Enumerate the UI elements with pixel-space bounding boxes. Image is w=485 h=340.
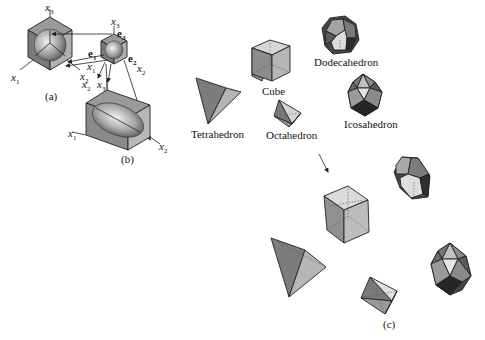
- axis-label-a-x3: x3: [44, 1, 54, 16]
- basis-label-e2: e2: [128, 52, 137, 67]
- panel-label-c: (c): [383, 318, 396, 331]
- axis-a-x1: [20, 60, 33, 70]
- axis-label-basis-x3b: x3: [96, 78, 106, 93]
- octahedron-top: [274, 100, 301, 127]
- polyhedra-figure: x3 x1 x2 (a) x3 e3 e1 e2 x1 x2 x2 x3 x1 …: [0, 0, 485, 340]
- arrow-down-x2: [98, 62, 105, 78]
- deformed-dodecahedron: [394, 157, 430, 199]
- panel-label-a: (a): [45, 90, 58, 103]
- tetrahedron-top: [196, 78, 241, 124]
- panel-b-box-ellipsoid: [72, 80, 160, 150]
- axis-label-basis-x2: x2: [136, 62, 146, 77]
- axis-label-b-x2: x2: [158, 140, 168, 155]
- axis-label-a-x1: x1: [10, 71, 20, 86]
- transform-arrow: [319, 154, 328, 172]
- deformed-icosahedron: [431, 243, 471, 295]
- dodecahedron-top: [322, 16, 359, 54]
- label-octahedron: Octahedron: [266, 129, 318, 141]
- arrow-down-x3: [108, 64, 111, 82]
- deformed-octahedron: [361, 277, 397, 314]
- panel-a-cube-sphere: [20, 9, 80, 70]
- deformed-cube: [324, 186, 369, 243]
- icosahedron-top: [348, 74, 382, 116]
- label-tetrahedron: Tetrahedron: [191, 128, 244, 140]
- panel-label-b: (b): [121, 153, 134, 166]
- axis-label-basis-x2b: x2: [81, 78, 91, 93]
- axis-label-b-x1: x1: [67, 127, 77, 142]
- deformed-tetrahedron: [271, 238, 326, 297]
- label-icosahedron: Icosahedron: [344, 118, 398, 130]
- label-cube: Cube: [262, 85, 285, 97]
- label-dodecahedron: Dodecahedron: [314, 56, 379, 68]
- cube-top: [252, 40, 290, 81]
